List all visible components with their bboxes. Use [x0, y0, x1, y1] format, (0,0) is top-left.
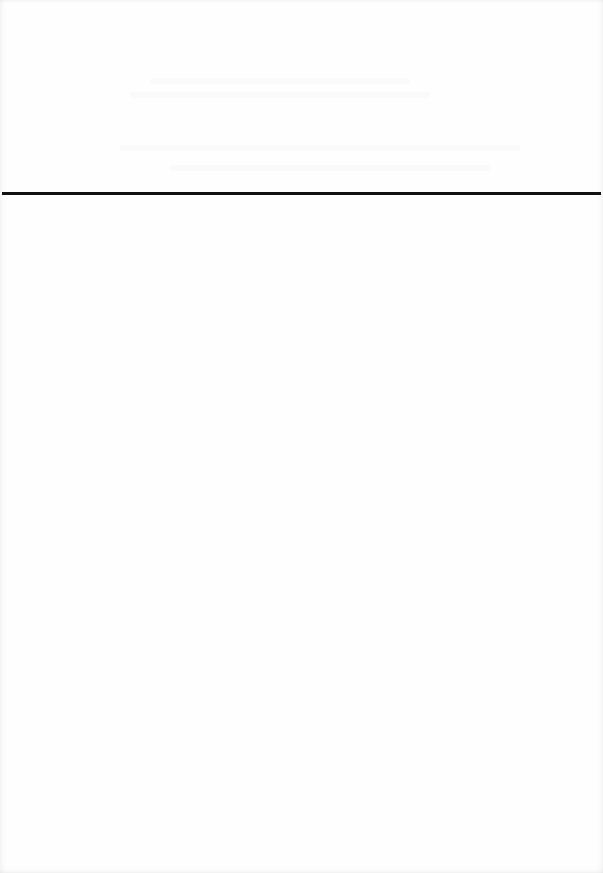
faint-header-region — [0, 0, 603, 190]
horizontal-divider-rule — [2, 192, 601, 195]
faint-text-ghost — [120, 145, 520, 151]
faint-text-ghost — [170, 165, 490, 171]
faint-text-ghost — [150, 78, 410, 84]
blank-body-region — [0, 196, 603, 873]
scanned-page — [0, 0, 603, 873]
faint-text-ghost — [130, 92, 430, 98]
